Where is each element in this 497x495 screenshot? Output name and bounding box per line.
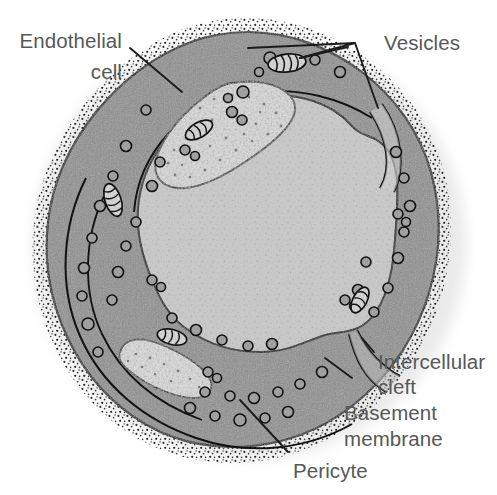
- label-vesicles: Vesicles: [384, 31, 460, 54]
- label-endothelial-cell-line1: Endothelial: [19, 29, 122, 52]
- label-intercellular-cleft-line1: Intercellular: [378, 350, 485, 373]
- label-basement-membrane-line1: Basement: [344, 401, 437, 424]
- label-endothelial-cell-line2: cell: [91, 60, 122, 83]
- label-intercellular-cleft-line2: cleft: [378, 375, 416, 398]
- figure-canvas: Endothelial cell Vesicles Intercellular …: [0, 0, 497, 495]
- label-basement-membrane-line2: membrane: [344, 427, 443, 450]
- label-pericyte: Pericyte: [293, 459, 368, 482]
- capillary-cross-section-diagram: Endothelial cell Vesicles Intercellular …: [0, 0, 497, 495]
